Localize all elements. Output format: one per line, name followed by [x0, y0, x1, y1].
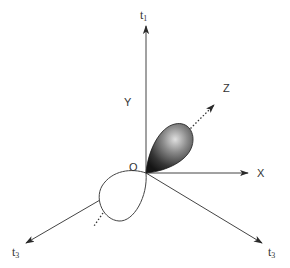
t3-left-axis [26, 200, 100, 243]
z-axis-negative [94, 213, 103, 226]
t1-label: t1 [140, 9, 147, 23]
z-label: Z [223, 83, 230, 94]
x-label: X [257, 168, 264, 179]
t3-right-label-sub: 3 [271, 251, 275, 260]
open-lobe [99, 171, 146, 221]
t3-left-label-sub: 3 [15, 251, 19, 260]
shaded-lobe [146, 124, 193, 173]
y-label: Y [124, 97, 131, 108]
t3-right-label: t3 [268, 246, 275, 260]
t3-right-axis [146, 173, 262, 243]
t3-left-label: t3 [12, 246, 19, 260]
orbital-axes-diagram [0, 0, 290, 268]
origin-label: O [129, 162, 138, 173]
z-axis [188, 105, 214, 131]
t1-label-sub: 1 [143, 14, 147, 23]
